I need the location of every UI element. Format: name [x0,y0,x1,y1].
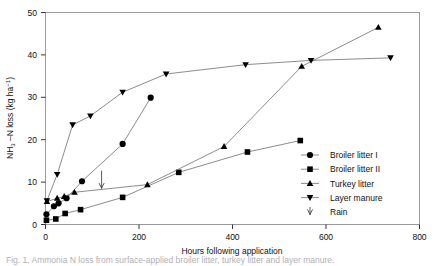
rain-annotation-icon [99,171,104,188]
marker-triangle-down [69,122,76,128]
marker-triangle-down [163,71,170,77]
legend-item-turkey-litter[interactable]: Turkey litter [301,179,374,189]
marker-triangle-up [375,24,382,30]
chart-svg: 0 10 20 30 40 50 NH3 –N loss (kg ha−1) 0… [0,0,441,266]
legend-item-broiler-litter-ii[interactable]: Broiler litter II [301,164,380,174]
x-tick-label-600: 600 [319,232,333,242]
x-axis-title: Hours following application [181,246,282,256]
y-axis-title: NH3 –N loss (kg ha−1) [5,77,16,159]
marker-circle [148,95,154,101]
legend: Broiler litter IBroiler litter IITurkey … [301,150,383,217]
y-axis-title-base3: ) [5,77,15,80]
figure-caption: Fig. 1. Ammonia N loss from surface-appl… [6,256,334,265]
y-axis-title-base1: NH [5,147,15,159]
series-line [47,27,378,201]
y-tick-label-20: 20 [28,135,38,145]
marker-square [44,217,50,223]
marker-circle [43,211,49,217]
marker-square [245,149,251,155]
y-tick-label-10: 10 [28,177,38,187]
marker-triangle-down [119,90,126,96]
series-turkey-litter [44,24,382,204]
marker-square [297,138,303,144]
marker-circle [79,178,85,184]
legend-item-layer-manure[interactable]: Layer manure [301,193,383,203]
marker-square [53,216,59,222]
x-tick-label-800: 800 [412,232,426,242]
legend-label: Rain [330,207,348,217]
x-tick-label-0: 0 [43,232,48,242]
rain-arrow-icon [99,171,104,188]
figure-container: 0 10 20 30 40 50 NH3 –N loss (kg ha−1) 0… [0,0,441,266]
marker-square [120,195,126,201]
legend-label: Turkey litter [330,179,374,189]
marker-triangle-up [298,63,305,69]
legend-item-broiler-litter-i[interactable]: Broiler litter I [301,150,378,160]
series-broiler-litter-i [43,95,153,218]
y-tick-label-30: 30 [28,92,38,102]
y-tick-label-0: 0 [32,220,37,230]
x-tick-label-200: 200 [132,232,146,242]
figure-caption-strip: Fig. 1. Ammonia N loss from surface-appl… [0,256,441,266]
marker-triangle-down [87,113,94,119]
marker-triangle-down [54,172,61,178]
x-tick-label-400: 400 [225,232,239,242]
x-axis: 0 200 400 600 800 Hours following applic… [43,225,427,257]
svg-text:NH3 –N loss (kg ha−1): NH3 –N loss (kg ha−1) [5,77,16,159]
marker-circle [120,141,126,147]
legend-label: Broiler litter I [330,150,378,160]
marker-triangle-up [144,181,151,187]
marker-triangle-down [307,195,314,201]
y-axis: 0 10 20 30 40 50 [28,8,46,230]
rain-arrow-icon [308,207,313,214]
y-tick-label-50: 50 [28,8,38,18]
y-tick-label-40: 40 [28,50,38,60]
marker-triangle-up [307,180,314,186]
y-axis-title-base2: –N loss (kg ha [5,86,15,143]
legend-label: Broiler litter II [330,164,380,174]
legend-label: Layer manure [330,193,383,203]
marker-circle [307,152,313,158]
marker-square [307,166,313,172]
legend-item-rain[interactable]: Rain [308,207,348,217]
marker-circle [55,200,61,206]
marker-square [78,207,84,213]
marker-square [62,211,68,217]
